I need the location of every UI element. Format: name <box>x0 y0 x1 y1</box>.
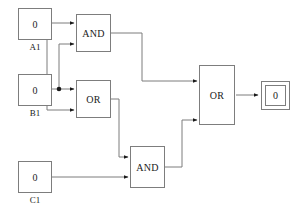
wire-and-bottom-to-or-main <box>164 120 197 167</box>
input-label-c1: C1 <box>18 195 52 205</box>
wire-b1-to-and-top <box>59 44 74 89</box>
input-value-b1: 0 <box>33 85 38 96</box>
gate-and-bottom[interactable]: AND <box>130 146 165 188</box>
gate-or-main-label: OR <box>210 90 225 101</box>
input-box-a1[interactable]: 0 <box>18 8 52 40</box>
output-display[interactable]: 0 <box>261 81 290 110</box>
gate-and-top[interactable]: AND <box>76 14 111 52</box>
gate-and-top-label: AND <box>82 28 105 39</box>
wire-or-mid-to-and-bottom <box>111 99 128 157</box>
input-label-b1: B1 <box>18 108 52 118</box>
gate-or-main[interactable]: OR <box>199 65 235 125</box>
output-display-inner: 0 <box>265 85 286 106</box>
input-value-c1: 0 <box>33 172 38 183</box>
input-box-b1[interactable]: 0 <box>18 74 52 106</box>
gate-or-mid-label: OR <box>86 94 101 105</box>
gate-and-bottom-label: AND <box>136 162 159 173</box>
output-value: 0 <box>273 90 278 101</box>
junction-dot-b1 <box>57 87 62 92</box>
wire-and-top-to-or-main <box>111 33 197 81</box>
input-value-a1: 0 <box>33 19 38 30</box>
input-label-a1: A1 <box>18 42 52 52</box>
gate-or-mid[interactable]: OR <box>76 80 111 118</box>
logic-circuit-diagram: 0 A1 0 B1 0 C1 AND OR AND OR 0 <box>0 0 297 212</box>
input-box-c1[interactable]: 0 <box>18 161 52 193</box>
